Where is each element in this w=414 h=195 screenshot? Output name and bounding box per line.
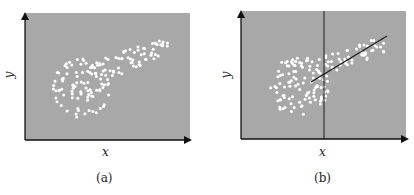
- x-axis-label-a: x: [102, 145, 109, 159]
- panel-b: [241, 11, 407, 139]
- figure: [0, 0, 414, 195]
- x-axis-label-b: x: [319, 145, 326, 159]
- y-axis-label-b: y: [219, 72, 233, 79]
- panel-a: [25, 13, 190, 140]
- y-axis-label-a: y: [2, 72, 16, 79]
- caption-a: (a): [96, 171, 113, 185]
- caption-b: (b): [314, 171, 331, 185]
- plot-area-a: [25, 13, 190, 140]
